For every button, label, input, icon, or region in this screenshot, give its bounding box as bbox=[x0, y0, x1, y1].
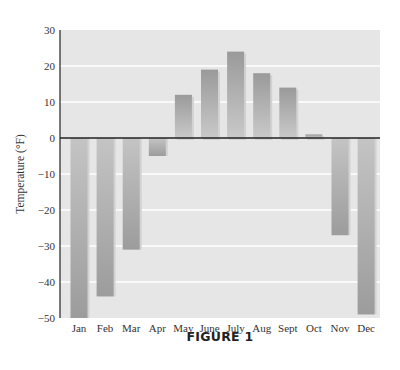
x-tick-label: Feb bbox=[97, 322, 114, 334]
bar-june bbox=[201, 70, 218, 138]
bar-mar bbox=[123, 138, 140, 250]
x-tick-label: Oct bbox=[306, 322, 322, 334]
y-tick-label: −10 bbox=[38, 168, 56, 180]
x-tick-label: Mar bbox=[122, 322, 141, 334]
bar-jan bbox=[71, 138, 88, 318]
x-tick-label: Nov bbox=[331, 322, 350, 334]
y-tick-label: −20 bbox=[38, 204, 56, 216]
y-tick-label: 20 bbox=[44, 60, 56, 72]
y-tick-label: 0 bbox=[50, 132, 56, 144]
x-tick-label: Jan bbox=[72, 322, 87, 334]
x-tick-label: Apr bbox=[149, 322, 166, 334]
bar-feb bbox=[97, 138, 114, 296]
y-tick-label: −30 bbox=[38, 240, 56, 252]
x-tick-label: Sept bbox=[278, 322, 298, 334]
y-tick-label: −50 bbox=[38, 312, 56, 324]
figure-caption: FIGURE 1 bbox=[186, 329, 253, 344]
y-tick-label: 10 bbox=[44, 96, 56, 108]
bar-dec bbox=[358, 138, 375, 314]
y-tick-labels: 3020100−10−20−30−40−50 bbox=[38, 24, 56, 324]
bar-nov bbox=[332, 138, 349, 235]
x-tick-label: Dec bbox=[357, 322, 375, 334]
bar-apr bbox=[149, 138, 166, 156]
bar-sept bbox=[279, 88, 296, 138]
x-tick-label: Aug bbox=[252, 322, 271, 334]
y-tick-label: −40 bbox=[38, 276, 56, 288]
bar-aug bbox=[253, 73, 270, 138]
bar-july bbox=[227, 52, 244, 138]
y-tick-label: 30 bbox=[44, 24, 56, 36]
bar-may bbox=[175, 95, 192, 138]
temperature-bar-chart: 3020100−10−20−30−40−50 JanFebMarAprMayJu… bbox=[0, 0, 400, 370]
y-axis-label: Temperature (°F) bbox=[14, 134, 27, 214]
